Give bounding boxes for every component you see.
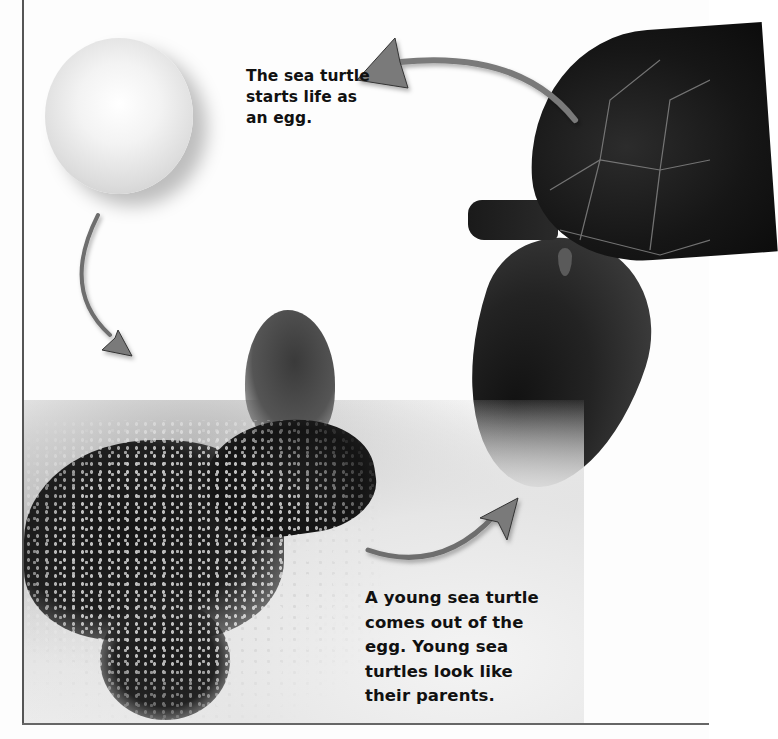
frame-border-bottom xyxy=(22,723,709,725)
egg-caption-line: starts life as xyxy=(246,87,370,108)
young-caption-line: A young sea turtle xyxy=(365,586,539,611)
young-caption-line: comes out of the xyxy=(365,611,539,636)
young-caption-line: turtles look like xyxy=(365,660,539,685)
young-turtle-caption: A young sea turtle comes out of the egg.… xyxy=(365,586,539,709)
young-caption-line: their parents. xyxy=(365,684,539,709)
shell-scute-lines xyxy=(540,40,710,260)
egg-caption: The sea turtle starts life as an egg. xyxy=(246,66,370,129)
egg-caption-line: The sea turtle xyxy=(246,66,370,87)
egg-image xyxy=(45,38,193,194)
young-caption-line: egg. Young sea xyxy=(365,635,539,660)
sand-grains xyxy=(24,420,384,723)
egg-caption-line: an egg. xyxy=(246,108,370,129)
arrow-down-icon xyxy=(82,215,132,356)
